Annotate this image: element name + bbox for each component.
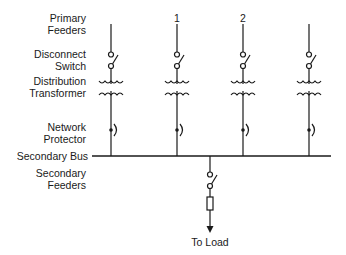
secondary-feeder [207, 156, 218, 233]
arrow-down-icon [207, 226, 214, 233]
feeder-0 [99, 24, 123, 156]
network-diagram [0, 0, 346, 255]
feeder-1 [165, 24, 189, 156]
fuse-icon [207, 197, 213, 210]
feeder-3 [297, 24, 321, 156]
feeder-2 [231, 24, 255, 156]
